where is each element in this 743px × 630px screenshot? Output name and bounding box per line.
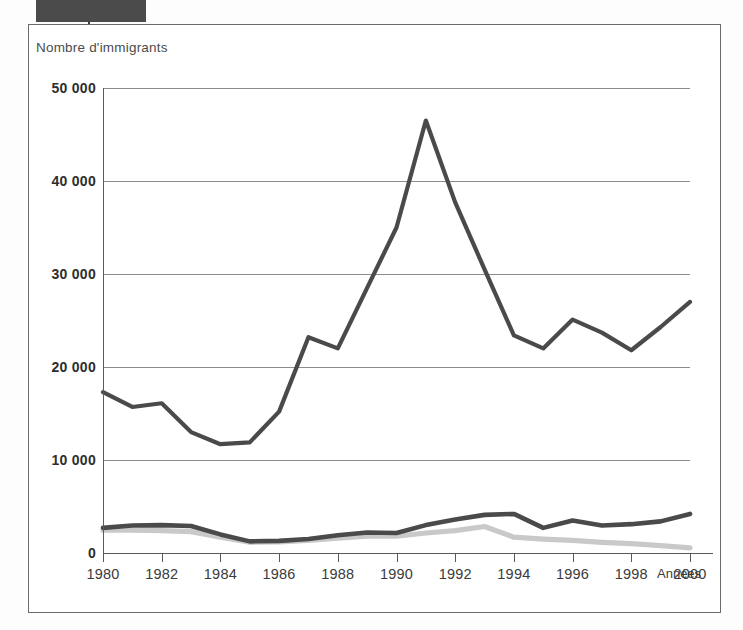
y-tick-label-20000: 20 000 — [51, 359, 96, 375]
x-tick-label-1990: 1990 — [380, 566, 413, 582]
x-tick-label-1992: 1992 — [439, 566, 472, 582]
y-tick-label-0: 0 — [88, 545, 96, 561]
y-tick-label-30000: 30 000 — [51, 266, 96, 282]
x-tick-label-1994: 1994 — [497, 566, 530, 582]
x-tick-1984 — [220, 553, 221, 562]
x-tick-1982 — [162, 553, 163, 562]
series-line-serie-principale — [103, 121, 690, 445]
x-tick-1980 — [103, 553, 104, 562]
y-tick-label-40000: 40 000 — [51, 173, 96, 189]
x-tick-1996 — [573, 553, 574, 562]
y-axis-spine — [103, 88, 104, 554]
x-tick-1994 — [514, 553, 515, 562]
x-tick-label-1986: 1986 — [263, 566, 296, 582]
x-tick-label-1988: 1988 — [321, 566, 354, 582]
y-tick-label-50000: 50 000 — [51, 80, 96, 96]
y-axis-tick-labels: 010 00020 00030 00040 00050 000 — [0, 0, 96, 630]
x-tick-1988 — [338, 553, 339, 562]
x-tick-1990 — [397, 553, 398, 562]
x-tick-label-1980: 1980 — [86, 566, 119, 582]
x-tick-label-1996: 1996 — [556, 566, 589, 582]
x-axis-caption: Années — [657, 566, 701, 581]
x-tick-label-1984: 1984 — [204, 566, 237, 582]
x-tick-label-1998: 1998 — [615, 566, 648, 582]
x-tick-1986 — [279, 553, 280, 562]
plot-area — [103, 88, 690, 553]
x-tick-2000 — [690, 553, 691, 562]
figure-root: Nombre d'immigrants 010 00020 00030 0004… — [0, 0, 743, 630]
x-axis-spine — [103, 553, 713, 554]
y-tick-label-10000: 10 000 — [51, 452, 96, 468]
x-tick-1998 — [631, 553, 632, 562]
x-tick-1992 — [455, 553, 456, 562]
x-tick-label-1982: 1982 — [145, 566, 178, 582]
series-lines — [103, 88, 690, 553]
series-line-serie-claire — [103, 527, 690, 548]
